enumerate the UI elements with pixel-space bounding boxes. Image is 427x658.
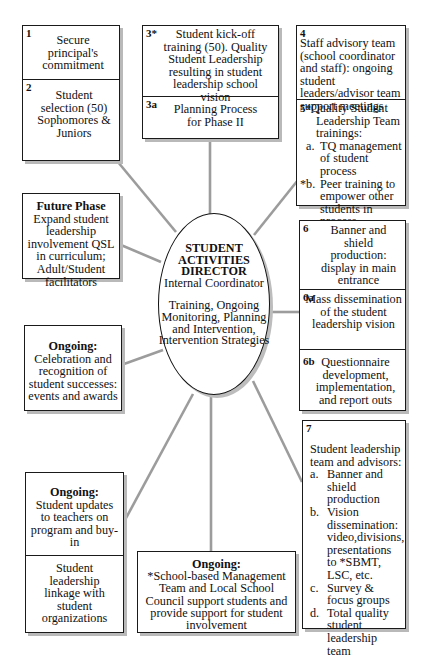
step-number: 3* [146,27,157,39]
connector-box7 [253,381,302,482]
step-number: 3a [146,98,157,110]
center-title: STUDENT ACTIVITIES DIRECTOR [159,243,269,278]
connector-box5 [254,180,298,235]
step-number: 7 [306,422,312,434]
box-steps-1-2: 1 Secure principal's commitment 2 Studen… [22,25,120,161]
council-text: *School-based Management Team and Local … [139,570,294,631]
list-item: b.Vision dissemination: video,divisions,… [310,506,403,582]
list-item: c.Survey & focus groups [310,582,403,607]
center-node-student-activities-director: STUDENT ACTIVITIES DIRECTOR Internal Coo… [158,213,270,395]
step-6-cell: 6 Banner and shield production: display … [300,221,405,289]
step-number: 6b [303,355,315,367]
step-1-text: Secure principal's commitment [33,34,113,72]
list-item: d.Total quality student leadership team [310,607,403,657]
step-6a-cell: 6a Mass dissemination of the student lea… [300,289,405,349]
step-3-text: Student kick-off training (50). Quality … [157,28,274,104]
center-subtitle: Internal Coordinator [153,278,275,290]
step-6b-cell: 6b Questionnaire development, implementa… [300,349,405,410]
step-5-list: a.TQ management of student process *b.Pe… [306,140,403,228]
step-6a-text: Mass dissemination of the student leader… [300,293,403,331]
celebration-heading: Ongoing: [27,340,119,353]
step-7-cell: 7 Student leadership team and advisors: … [303,421,405,657]
linkage-text: Student leadership linkage with student … [30,562,119,625]
step-number: 5* [300,102,311,114]
updates-heading: Ongoing: [30,486,119,499]
box-ongoing-council: Ongoing: *School-based Management Team a… [137,551,296,633]
box-future-phase: Future Phase Expand student leadership i… [22,193,120,279]
step-number: 4 [300,27,306,39]
box-steps-3-3a: 3* Student kick-off training (50). Quali… [142,25,279,139]
updates-cell: Ongoing: Student updates to teachers on … [26,473,123,555]
step-7-heading: Student leadership team and advisors: [310,443,403,468]
step-number: 6a [303,291,314,303]
future-phase-heading: Future Phase [25,200,117,213]
future-phase-text: Expand student leadership involvement QS… [25,213,117,289]
list-item: a.Banner and shield production [310,468,403,506]
step-1-cell: 1 Secure principal's commitment [23,26,119,79]
celebration-text: Celebration and recognition of student s… [27,353,119,403]
step-6b-text: Questionnaire development, implementatio… [302,356,403,406]
step-number: 2 [26,81,32,93]
celebration-cell: Ongoing: Celebration and recognition of … [25,326,121,403]
list-item: a.TQ management of student process [306,140,403,178]
box-ongoing-updates: Ongoing: Student updates to teachers on … [25,472,124,633]
connector-updates [125,394,193,520]
step-3a-text: Planning Process for Phase II [157,103,274,128]
step-2-cell: 2 Student selection (50) Sophomores & Ju… [23,79,119,160]
step-4-cell: 4 Staff advisory team (school coordinato… [297,26,405,99]
step-3a-cell: 3a Planning Process for Phase II [143,96,278,138]
future-phase-cell: Future Phase Expand student leadership i… [23,194,119,288]
step-3-cell: 3* Student kick-off training (50). Quali… [143,26,278,96]
box-steps-6: 6 Banner and shield production: display … [299,220,406,411]
step-5-cell: 5*Quality Student Leadership Team traini… [297,99,405,205]
council-cell: Ongoing: *School-based Management Team a… [138,552,295,631]
step-number: 6 [303,222,309,234]
step-5-heading-text: Quality Student Leadership Team training… [311,101,400,140]
connector-future [121,245,161,262]
center-description: Training, Ongoing Monitoring, Planning a… [157,300,271,346]
box-ongoing-celebration: Ongoing: Celebration and recognition of … [24,325,122,411]
step-2-text: Student selection (50) Sophomores & Juni… [33,89,115,139]
step-5-heading: 5*Quality Student Leadership Team traini… [300,102,403,140]
step-6-text: Banner and shield production: display in… [314,224,403,287]
step-number: 1 [26,27,32,39]
connector-celebration [124,350,163,364]
box-step-7: 7 Student leadership team and advisors: … [302,420,406,629]
updates-text: Student updates to teachers on program a… [30,499,119,549]
step-7-list: a.Banner and shield production b.Vision … [310,468,403,657]
box-steps-4-5: 4 Staff advisory team (school coordinato… [296,25,406,206]
linkage-cell: Student leadership linkage with student … [26,555,123,632]
